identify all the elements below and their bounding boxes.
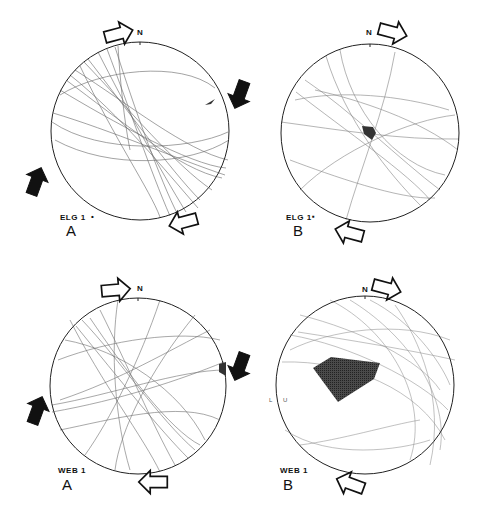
compression-arrow-north-icon (370, 274, 403, 303)
primitive-circle (51, 42, 229, 220)
panel-letter: A (62, 476, 72, 493)
panel-elg1-a (21, 19, 256, 237)
site-marker: • (91, 212, 94, 221)
panel-letter: B (283, 476, 293, 493)
north-label: N (362, 285, 368, 294)
great-circles (52, 300, 225, 472)
panel-letter: B (293, 222, 303, 239)
site-marker: ▪ (312, 212, 315, 221)
panel-letter: A (66, 222, 76, 239)
great-circles (52, 46, 229, 217)
compression-arrow-south-icon (332, 218, 365, 247)
north-label: N (137, 28, 143, 37)
side-label-l: L (269, 397, 272, 403)
cropped-caption (190, 0, 310, 2)
extension-arrow-east-icon (224, 78, 255, 113)
site-label: WEB 1 (280, 466, 308, 475)
site-label: ELG 1 (286, 213, 312, 222)
extension-arrow-west-icon (22, 393, 53, 428)
primitive-circle (276, 296, 454, 474)
site-label: WEB 1 (58, 466, 86, 475)
p-axis-fill (219, 362, 226, 376)
compression-arrow-south-icon (166, 208, 199, 237)
p-axis-fill (205, 99, 215, 105)
p-axis-fill (313, 357, 380, 402)
extension-arrow-west-icon (21, 164, 52, 199)
north-label: N (137, 284, 143, 293)
compression-arrow-south-icon (333, 468, 368, 499)
site-label: ELG 1 (60, 213, 86, 222)
side-label-u: U (283, 397, 287, 403)
north-label: N (366, 28, 372, 37)
p-axis-fill (362, 126, 376, 140)
extension-arrow-east-icon (224, 350, 255, 385)
stereonet-canvas (0, 0, 480, 512)
compression-arrow-north-icon (376, 18, 409, 47)
stereonet-figure: N ELG 1 • A N ELG 1 ▪ B N WEB 1 A N L U … (0, 0, 480, 512)
primitive-circle (50, 298, 226, 474)
panel-web1-a (22, 277, 256, 493)
